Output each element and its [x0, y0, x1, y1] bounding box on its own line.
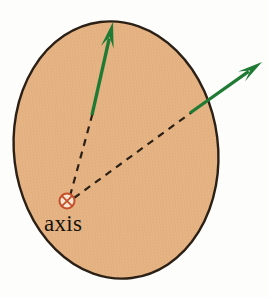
rotation-axis-symbol: [60, 194, 75, 209]
vector-arrow-2-head: [238, 62, 262, 81]
disk-group: [0, 10, 233, 291]
axis-label: axis: [44, 211, 82, 236]
tilted-disk-ellipse: [0, 10, 233, 291]
figure-canvas: axis: [0, 0, 268, 298]
diagram-svg: axis: [0, 0, 268, 298]
